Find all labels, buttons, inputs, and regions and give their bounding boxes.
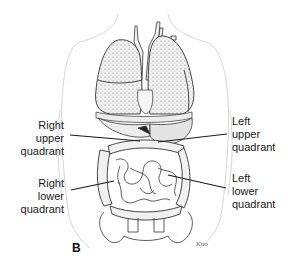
leader-line-left-lower <box>168 175 226 188</box>
small-intestine <box>116 159 176 203</box>
label-left-upper-quadrant: Left upper quadrant <box>232 115 290 154</box>
label-right-lower-quadrant: Right lower quadrant <box>8 177 64 216</box>
label-left-lower-quadrant: Left lower quadrant <box>232 172 290 211</box>
artist-signature: Kno <box>195 240 208 248</box>
abdominal-quadrants-figure: Kno Right upper quadrant Right lower qua… <box>0 0 291 264</box>
panel-letter: B <box>72 241 81 255</box>
label-right-upper-quadrant: Right upper quadrant <box>8 119 64 158</box>
